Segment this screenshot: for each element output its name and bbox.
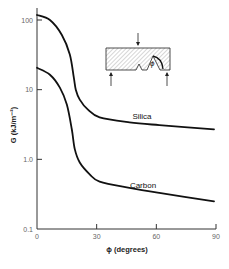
arrow-bottom-right — [165, 72, 169, 86]
inset-diagram: ϕ — [106, 33, 170, 86]
x-tick-label: 0 — [35, 233, 39, 240]
y-tick-label: 10 — [25, 86, 33, 93]
series-label-silica: Silica — [132, 112, 152, 121]
y-axis-title: G (kJ/m⁻²) — [9, 106, 18, 143]
specimen-shape — [106, 48, 170, 70]
chart: 03060900.11.010100 SilicaCarbonϕ (degree… — [0, 0, 229, 269]
axes — [37, 8, 216, 229]
series-line-silica — [37, 15, 214, 129]
series-line-carbon — [37, 68, 214, 201]
y-tick-label: 0.1 — [23, 226, 33, 233]
phi-symbol: ϕ — [150, 59, 155, 68]
arrow-top — [136, 33, 140, 46]
x-tick-label: 30 — [93, 233, 101, 240]
x-tick-label: 90 — [212, 233, 220, 240]
arrow-bottom-left — [109, 72, 113, 86]
y-tick-label: 100 — [21, 17, 33, 24]
curves — [37, 15, 214, 201]
x-axis-title: ϕ (degrees) — [106, 245, 148, 254]
series-label-carbon: Carbon — [130, 181, 156, 190]
y-tick-label: 1.0 — [23, 156, 33, 163]
x-tick-label: 60 — [152, 233, 160, 240]
